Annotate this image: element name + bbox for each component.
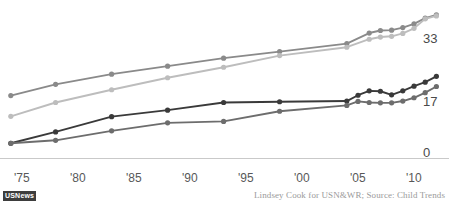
data-point-marker bbox=[423, 80, 428, 85]
series-series-upper-gray bbox=[8, 12, 439, 98]
y-tick-label-33: 33 bbox=[423, 31, 437, 46]
data-point-marker bbox=[221, 119, 226, 124]
series-layer bbox=[8, 12, 439, 146]
data-point-marker bbox=[221, 56, 226, 61]
data-point-marker bbox=[277, 109, 282, 114]
x-tick-label-80: '80 bbox=[70, 171, 86, 185]
series-series-dark bbox=[8, 74, 439, 146]
data-point-marker bbox=[400, 25, 405, 30]
data-point-marker bbox=[344, 45, 349, 50]
data-point-marker bbox=[221, 65, 226, 70]
data-point-marker bbox=[165, 120, 170, 125]
data-point-marker bbox=[109, 114, 114, 119]
data-point-marker bbox=[367, 100, 372, 105]
data-point-marker bbox=[378, 100, 383, 105]
data-point-marker bbox=[277, 53, 282, 58]
x-tick-label-75: '75 bbox=[14, 171, 30, 185]
x-tick-label-05: '05 bbox=[350, 171, 366, 185]
data-point-marker bbox=[411, 26, 416, 31]
data-point-marker bbox=[411, 95, 416, 100]
data-point-marker bbox=[165, 64, 170, 69]
data-point-marker bbox=[165, 75, 170, 80]
x-tick-label-90: '90 bbox=[182, 171, 198, 185]
data-point-marker bbox=[355, 93, 360, 98]
data-point-marker bbox=[400, 88, 405, 93]
x-tick-label-85: '85 bbox=[126, 171, 142, 185]
data-point-marker bbox=[109, 72, 114, 77]
x-tick-label-95: '95 bbox=[238, 171, 254, 185]
data-point-marker bbox=[344, 103, 349, 108]
data-point-marker bbox=[411, 84, 416, 89]
data-point-marker bbox=[53, 82, 58, 87]
series-line bbox=[11, 76, 437, 143]
series-line bbox=[11, 15, 437, 96]
data-point-marker bbox=[109, 87, 114, 92]
data-point-marker bbox=[423, 16, 428, 21]
data-point-marker bbox=[400, 98, 405, 103]
data-point-marker bbox=[8, 114, 13, 119]
data-point-marker bbox=[389, 34, 394, 39]
data-point-marker bbox=[109, 128, 114, 133]
series-line bbox=[11, 87, 437, 144]
data-point-marker bbox=[389, 92, 394, 97]
data-point-marker bbox=[277, 99, 282, 104]
data-point-marker bbox=[221, 100, 226, 105]
data-point-marker bbox=[165, 108, 170, 113]
data-point-marker bbox=[434, 84, 439, 89]
data-point-marker bbox=[378, 34, 383, 39]
data-point-marker bbox=[53, 138, 58, 143]
series-series-mid-gray bbox=[8, 84, 439, 146]
data-point-marker bbox=[367, 88, 372, 93]
data-point-marker bbox=[367, 37, 372, 42]
data-point-marker bbox=[378, 28, 383, 33]
x-tick-label-10: '10 bbox=[406, 171, 422, 185]
credit-attribution: Lindsey Cook for USN&WR; Source: Child T… bbox=[254, 190, 445, 200]
x-tick-label-00: '00 bbox=[294, 171, 310, 185]
chart-figure: 33 17 0 '75 '80 '85 '90 '95 '00 '05 '10 … bbox=[0, 0, 449, 205]
data-point-marker bbox=[389, 28, 394, 33]
data-point-marker bbox=[434, 13, 439, 18]
data-point-marker bbox=[8, 93, 13, 98]
data-point-marker bbox=[378, 89, 383, 94]
line-chart-canvas bbox=[0, 0, 449, 205]
y-tick-label-17: 17 bbox=[423, 94, 437, 109]
data-point-marker bbox=[53, 129, 58, 134]
data-point-marker bbox=[355, 99, 360, 104]
data-point-marker bbox=[389, 100, 394, 105]
data-point-marker bbox=[367, 30, 372, 35]
data-point-marker bbox=[400, 31, 405, 36]
y-tick-label-0: 0 bbox=[423, 145, 430, 160]
data-point-marker bbox=[434, 74, 439, 79]
data-point-marker bbox=[53, 100, 58, 105]
data-point-marker bbox=[8, 141, 13, 146]
usnews-logo: USNews bbox=[3, 191, 36, 201]
